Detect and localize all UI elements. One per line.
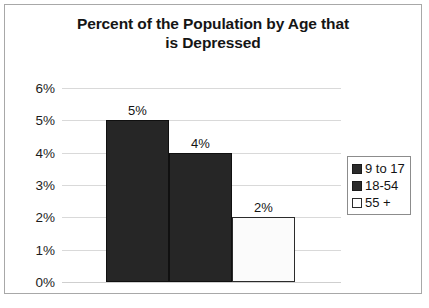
legend-item-18-54[interactable]: 18-54 [352,177,405,194]
bar-value-label-55-plus: 2% [233,200,294,215]
legend-label-18-54: 18-54 [365,179,398,192]
chart-title-line-1: Percent of the Population by Age that [77,15,349,32]
legend-item-55-plus[interactable]: 55 + [352,194,405,211]
plot-area: 6% 5% 4% 3% 2% 1% 0% 5% [62,88,341,282]
chart-title: Percent of the Population by Age that is… [5,14,421,52]
chart-title-line-2: is Depressed [5,33,421,52]
legend-swatch-icon-55-plus [352,198,362,208]
y-axis-tick-label-4: 4% [35,145,55,160]
bar-slot-55-plus: 2% [232,88,295,282]
y-axis-tick-label-2: 2% [35,210,55,225]
bar-55-plus[interactable]: 2% [232,217,295,282]
chart-frame: Percent of the Population by Age that is… [4,4,422,294]
legend-swatch-icon-9-to-17 [352,164,362,174]
y-axis-tick-label-5: 5% [35,113,55,128]
bar-slot-9-to-17: 5% [106,88,169,282]
legend-label-9-to-17: 9 to 17 [365,162,405,175]
bar-value-label-9-to-17: 5% [107,103,168,118]
y-axis-tick-label-3: 3% [35,178,55,193]
y-axis-tick-label-0: 0% [35,275,55,290]
bar-group: 5% 4% 2% [106,88,295,282]
bar-value-label-18-54: 4% [170,136,231,151]
legend-swatch-icon-18-54 [352,181,362,191]
y-axis-tick-label-1: 1% [35,242,55,257]
legend-label-55-plus: 55 + [365,196,391,209]
bar-slot-18-54: 4% [169,88,232,282]
y-axis-tick-label-6: 6% [35,81,55,96]
bar-9-to-17[interactable]: 5% [106,120,169,282]
chart-legend: 9 to 17 18-54 55 + [347,156,411,215]
legend-item-9-to-17[interactable]: 9 to 17 [352,160,405,177]
gridline-0-baseline: 0% [62,282,341,283]
bar-18-54[interactable]: 4% [169,153,232,282]
